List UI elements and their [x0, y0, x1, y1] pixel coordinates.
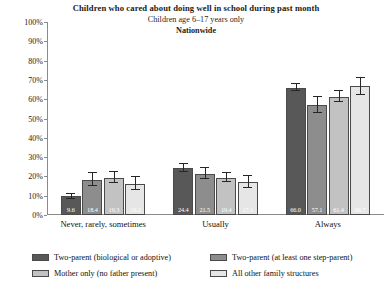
- error-bar-cap-upper: [200, 167, 209, 168]
- legend-swatch: [32, 254, 49, 261]
- legend-item[interactable]: Two-parent (at least one step-parent): [210, 253, 384, 262]
- error-bar-cap-lower: [200, 178, 209, 179]
- y-axis-tick-label: 80%: [3, 56, 43, 65]
- error-bar-cap-lower: [88, 185, 97, 186]
- bar-value-label: 66.7: [351, 206, 369, 213]
- chart-legend: Two-parent (biological or adoptive)Two-p…: [32, 253, 384, 278]
- y-axis-tick-label: 60%: [3, 95, 43, 104]
- legend-item[interactable]: All other family structures: [210, 269, 384, 278]
- legend-item[interactable]: Two-parent (biological or adoptive): [32, 253, 210, 262]
- error-bar-cap-upper: [313, 96, 322, 97]
- error-bar-cap-upper: [179, 163, 188, 164]
- legend-label: Two-parent (at least one step-parent): [232, 253, 352, 262]
- legend-label: All other family structures: [232, 269, 319, 278]
- bar-value-label: 24.4: [174, 206, 192, 213]
- bar-value-label: 19.3: [105, 206, 123, 213]
- error-bar: [317, 97, 318, 113]
- bar-group: 66.057.161.466.7: [286, 22, 371, 215]
- bar-value-label: 57.1: [308, 206, 326, 213]
- legend-swatch: [32, 270, 49, 277]
- bar-value-label: 9.6: [62, 206, 80, 213]
- bar: 24.4: [173, 168, 193, 215]
- error-bar-cap-lower: [313, 112, 322, 113]
- y-axis-tick-label: 30%: [3, 153, 43, 162]
- bar: 9.6: [61, 196, 81, 215]
- y-axis-line: [47, 22, 48, 215]
- y-axis-tick-label: 20%: [3, 172, 43, 181]
- bar: 21.5: [195, 174, 215, 215]
- bar: 19.4: [216, 178, 236, 215]
- y-axis-tick-label: 100%: [3, 18, 43, 27]
- y-axis-tick-mark: [44, 215, 47, 216]
- y-axis-tick-mark: [44, 80, 47, 81]
- error-bar-cap-upper: [291, 83, 300, 84]
- bar: 66.0: [286, 88, 306, 215]
- y-axis-tick-label: 40%: [3, 133, 43, 142]
- y-axis-tick-mark: [44, 119, 47, 120]
- x-axis-category-label: Never, rarely, sometimes: [60, 219, 145, 229]
- error-bar-cap-lower: [131, 189, 140, 190]
- error-bar-cap-lower: [291, 90, 300, 91]
- y-axis-tick-label: 70%: [3, 75, 43, 84]
- plot-area: 0%10%20%30%40%50%60%70%80%90%100% 9.618.…: [47, 22, 384, 215]
- bar-value-label: 66.0: [287, 206, 305, 213]
- error-bar-cap-lower: [334, 101, 343, 102]
- x-axis-category-label: Usually: [202, 219, 229, 229]
- error-bar-cap-upper: [356, 77, 365, 78]
- bar-value-label: 17.1: [239, 206, 257, 213]
- legend-swatch: [210, 270, 227, 277]
- error-bar-cap-lower: [243, 187, 252, 188]
- error-bar-cap-upper: [66, 193, 75, 194]
- bar-value-label: 61.4: [330, 206, 348, 213]
- error-bar-cap-lower: [222, 181, 231, 182]
- error-bar-cap-upper: [222, 172, 231, 173]
- error-bar-cap-upper: [131, 176, 140, 177]
- y-axis-tick-mark: [44, 22, 47, 23]
- bar: 66.7: [350, 86, 370, 215]
- y-axis-tick-label: 10%: [3, 191, 43, 200]
- legend-label: Two-parent (biological or adoptive): [54, 253, 171, 262]
- x-axis-category-label: Always: [315, 219, 341, 229]
- error-bar-cap-upper: [334, 90, 343, 91]
- y-axis-tick-label: 90%: [3, 37, 43, 46]
- error-bar-cap-lower: [179, 171, 188, 172]
- chart-container: Children who cared about doing well in s…: [0, 0, 392, 303]
- y-axis-tick-mark: [44, 99, 47, 100]
- legend-item[interactable]: Mother only (no father present): [32, 269, 210, 278]
- chart-title: Children who cared about doing well in s…: [0, 3, 392, 14]
- error-bar-cap-upper: [88, 172, 97, 173]
- bar: 57.1: [307, 105, 327, 215]
- error-bar-cap-upper: [109, 171, 118, 172]
- error-bar-cap-lower: [109, 182, 118, 183]
- y-axis-tick-mark: [44, 61, 47, 62]
- bar-value-label: 18.4: [83, 206, 101, 213]
- bar: 19.3: [104, 178, 124, 215]
- y-axis-tick-mark: [44, 138, 47, 139]
- error-bar: [360, 78, 361, 95]
- y-axis-tick-mark: [44, 196, 47, 197]
- bar-group: 9.618.419.316.2: [61, 22, 146, 215]
- bar: 61.4: [329, 97, 349, 216]
- bar-value-label: 16.2: [126, 206, 144, 213]
- legend-swatch: [210, 254, 227, 261]
- y-axis-tick-label: 50%: [3, 114, 43, 123]
- error-bar-cap-upper: [243, 175, 252, 176]
- error-bar: [92, 173, 93, 187]
- y-axis-tick-mark: [44, 41, 47, 42]
- error-bar-cap-lower: [66, 198, 75, 199]
- y-axis-tick-label: 0%: [3, 211, 43, 220]
- legend-label: Mother only (no father present): [54, 269, 157, 278]
- bar-value-label: 19.4: [217, 206, 235, 213]
- bar-group: 24.421.519.417.1: [173, 22, 258, 215]
- y-axis-tick-mark: [44, 157, 47, 158]
- bar-value-label: 21.5: [196, 206, 214, 213]
- y-axis-tick-mark: [44, 176, 47, 177]
- error-bar-cap-lower: [356, 94, 365, 95]
